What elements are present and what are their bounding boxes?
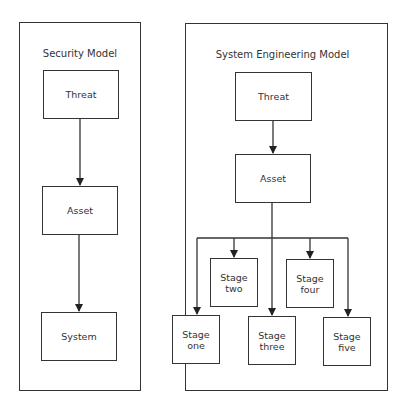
arrowhead-icon [344,309,352,317]
connector-layer [0,0,404,410]
arrowhead-icon [75,304,83,312]
arrowhead-icon [306,251,314,259]
arrowhead-icon [193,307,201,315]
arrowhead-icon [230,250,238,258]
arrowhead-icon [268,308,276,316]
arrowhead-icon [76,178,84,186]
arrowhead-icon [269,146,277,154]
